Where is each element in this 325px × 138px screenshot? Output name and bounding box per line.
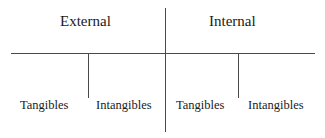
branch-heading-external: External — [60, 14, 111, 29]
classification-diagram: External Internal Tangibles Intangibles … — [0, 0, 325, 138]
leaf-label-internal-tangibles: Tangibles — [176, 99, 224, 112]
leaf-label-external-tangibles: Tangibles — [20, 99, 68, 112]
branch-divider-external — [88, 54, 89, 98]
leaf-label-internal-intangibles: Intangibles — [248, 99, 304, 112]
center-divider-line — [165, 8, 166, 132]
branch-heading-internal: Internal — [209, 14, 256, 29]
horizontal-separator-line — [11, 53, 315, 54]
branch-divider-internal — [238, 54, 239, 98]
leaf-label-external-intangibles: Intangibles — [96, 99, 152, 112]
